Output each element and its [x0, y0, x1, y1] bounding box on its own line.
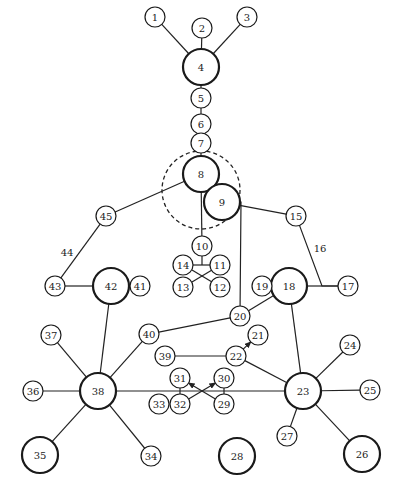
edge-23-25: [321, 390, 360, 391]
node-label: 25: [364, 385, 377, 396]
edge-23-24: [316, 352, 343, 378]
edge-23-27: [290, 408, 297, 427]
node-label: 35: [34, 450, 47, 461]
node-label: 17: [342, 281, 355, 292]
node-22[interactable]: 22: [226, 346, 246, 366]
node-30[interactable]: 30: [214, 368, 234, 388]
node-label: 2: [199, 23, 205, 34]
node-1[interactable]: 1: [145, 7, 165, 27]
node-15[interactable]: 15: [286, 206, 306, 226]
node-41[interactable]: 41: [130, 276, 150, 296]
node-12[interactable]: 12: [210, 277, 230, 297]
node-34[interactable]: 34: [141, 446, 161, 466]
edge-3-4: [213, 24, 240, 53]
node-27[interactable]: 27: [277, 426, 297, 446]
edge-9-15: [240, 205, 286, 214]
node-label: 19: [256, 281, 269, 292]
node-label: 40: [143, 329, 156, 340]
edge-23-26: [315, 404, 349, 441]
node-label: 24: [344, 340, 357, 351]
node-label: 15: [290, 211, 303, 222]
edge-20-40: [159, 318, 230, 332]
node-label: 12: [214, 282, 227, 293]
node-11[interactable]: 11: [210, 255, 230, 275]
node-label: 32: [174, 399, 187, 410]
node-43[interactable]: 43: [45, 276, 65, 296]
node-10[interactable]: 10: [192, 236, 212, 256]
node-label: 9: [219, 197, 225, 208]
node-42[interactable]: 42: [93, 268, 129, 304]
node-label: 14: [177, 260, 190, 271]
node-label: 20: [234, 311, 247, 322]
node-37[interactable]: 37: [41, 325, 61, 345]
node-45[interactable]: 45: [96, 206, 116, 226]
edge-38-37: [57, 343, 86, 378]
node-33[interactable]: 33: [149, 394, 169, 414]
node-label: 11: [214, 260, 227, 271]
network-diagram: 1234567891011121314151718192021222324252…: [0, 0, 404, 495]
node-19[interactable]: 19: [252, 276, 272, 296]
edge-9-20: [240, 202, 241, 306]
node-39[interactable]: 39: [155, 346, 175, 366]
node-label: 8: [198, 169, 204, 180]
node-13[interactable]: 13: [173, 277, 193, 297]
node-31[interactable]: 31: [170, 368, 190, 388]
node-26[interactable]: 26: [344, 436, 380, 472]
node-label: 18: [283, 281, 296, 292]
node-label: 45: [100, 211, 113, 222]
node-label: 7: [198, 138, 204, 149]
node-21[interactable]: 21: [248, 325, 268, 345]
node-label: 21: [252, 330, 265, 341]
node-38[interactable]: 38: [80, 373, 116, 409]
edge-38-35: [52, 404, 86, 441]
edge-label-44: 44: [61, 247, 74, 258]
node-24[interactable]: 24: [340, 335, 360, 355]
node-25[interactable]: 25: [360, 380, 380, 400]
node-layer: 1234567891011121314151718192021222324252…: [22, 7, 380, 474]
node-5[interactable]: 5: [191, 88, 211, 108]
node-6[interactable]: 6: [191, 114, 211, 134]
node-label: 1: [152, 12, 158, 23]
node-17[interactable]: 17: [338, 276, 358, 296]
node-4[interactable]: 4: [183, 49, 219, 85]
node-label: 3: [244, 12, 250, 23]
node-label: 31: [174, 373, 187, 384]
edge-1-4: [162, 24, 189, 53]
node-28[interactable]: 28: [219, 438, 255, 474]
node-36[interactable]: 36: [23, 381, 43, 401]
node-label: 4: [198, 62, 204, 73]
node-label: 13: [177, 282, 190, 293]
node-9[interactable]: 9: [204, 184, 240, 220]
node-label: 22: [230, 351, 243, 362]
edge-18-23: [291, 304, 300, 373]
node-label: 38: [92, 386, 105, 397]
edge-38-34: [109, 405, 144, 448]
node-2[interactable]: 2: [192, 18, 212, 38]
node-40[interactable]: 40: [139, 324, 159, 344]
node-label: 6: [198, 119, 204, 130]
node-label: 33: [153, 399, 166, 410]
edge-38-42: [100, 304, 109, 373]
node-label: 26: [356, 449, 369, 460]
node-3[interactable]: 3: [237, 7, 257, 27]
node-label: 42: [105, 281, 118, 292]
node-label: 37: [45, 330, 58, 341]
node-label: 23: [297, 386, 310, 397]
node-label: 34: [145, 451, 158, 462]
node-23[interactable]: 23: [285, 373, 321, 409]
node-18[interactable]: 18: [271, 268, 307, 304]
node-29[interactable]: 29: [214, 394, 234, 414]
node-32[interactable]: 32: [170, 394, 190, 414]
node-label: 29: [218, 399, 231, 410]
edge-22-23: [245, 361, 287, 383]
node-label: 30: [218, 373, 231, 384]
node-label: 43: [49, 281, 62, 292]
node-label: 5: [198, 93, 204, 104]
node-20[interactable]: 20: [230, 306, 250, 326]
node-label: 36: [27, 386, 40, 397]
node-7[interactable]: 7: [191, 133, 211, 153]
edge-8-45: [115, 181, 184, 212]
node-14[interactable]: 14: [173, 255, 193, 275]
node-35[interactable]: 35: [22, 437, 58, 473]
node-label: 10: [196, 241, 209, 252]
